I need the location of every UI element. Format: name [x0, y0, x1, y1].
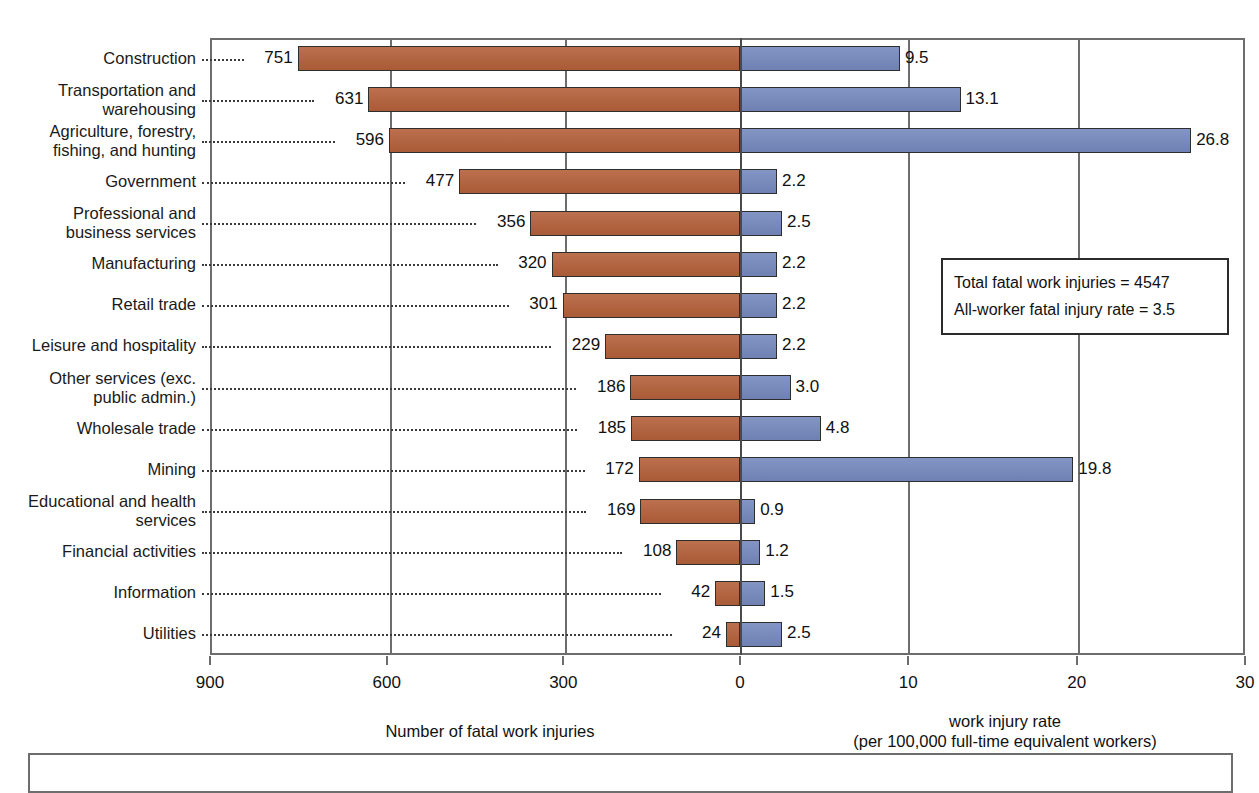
- right-axis-title-line2: (per 100,000 full-time equivalent worker…: [853, 732, 1157, 750]
- fatality-count-value: 185: [580, 418, 626, 438]
- category-label-line1: Other services (exc.: [49, 369, 196, 387]
- fatality-count-value: 229: [554, 335, 600, 355]
- fatality-count-bar: [530, 211, 740, 236]
- injury-rate-bar: [740, 416, 821, 441]
- category-label-line1: Utilities: [143, 624, 196, 642]
- injury-rate-value: 9.5: [905, 48, 929, 68]
- bar-row: Agriculture, forestry,fishing, and hunti…: [0, 120, 1259, 161]
- category-label-line1: Construction: [103, 49, 196, 67]
- fatality-count-value: 477: [408, 171, 454, 191]
- injury-rate-value: 2.2: [782, 171, 806, 191]
- tick-10-mark: [907, 656, 909, 665]
- category-label-line2: public admin.): [93, 388, 196, 406]
- tick-30-mark: [1244, 656, 1246, 665]
- category-label-line1: Professional and: [73, 204, 196, 222]
- category-label: Leisure and hospitality: [0, 336, 196, 355]
- bar-row: Other services (exc.public admin.)1863.0: [0, 367, 1259, 408]
- injury-rate-bar: [740, 293, 777, 318]
- leader-line: [202, 264, 498, 266]
- right-axis-title-line1: work injury rate: [949, 712, 1061, 730]
- category-label-line1: Wholesale trade: [77, 419, 196, 437]
- tick-30-label: 30: [1205, 673, 1259, 693]
- fatality-count-bar: [630, 375, 740, 400]
- gridline-zero: [740, 38, 742, 655]
- bar-row: Utilities242.5: [0, 614, 1259, 655]
- category-label: Transportation andwarehousing: [0, 81, 196, 119]
- leader-line: [202, 346, 551, 348]
- tick-0-mark: [739, 656, 741, 665]
- injury-rate-value: 2.5: [787, 212, 811, 232]
- fatality-count-bar: [631, 416, 740, 441]
- leader-line: [202, 429, 577, 431]
- category-label: Professional andbusiness services: [0, 204, 196, 242]
- fatality-count-value: 108: [625, 541, 671, 561]
- injury-rate-value: 3.0: [796, 377, 820, 397]
- injury-rate-bar: [740, 252, 777, 277]
- leader-line: [202, 552, 622, 554]
- category-label: Wholesale trade: [0, 419, 196, 438]
- category-label-line2: business services: [66, 223, 196, 241]
- fatality-count-bar: [368, 87, 740, 112]
- fatality-count-bar: [298, 46, 740, 71]
- fatality-count-value: 186: [579, 377, 625, 397]
- injury-rate-value: 2.2: [782, 294, 806, 314]
- category-label: Other services (exc.public admin.): [0, 369, 196, 407]
- fatality-count-value: 320: [501, 253, 547, 273]
- bar-row: Construction7519.5: [0, 38, 1259, 79]
- injury-rate-value: 1.5: [770, 582, 794, 602]
- category-label: Government: [0, 172, 196, 191]
- tick-0-label: 0: [700, 673, 780, 693]
- category-label: Educational and healthservices: [0, 492, 196, 530]
- fatality-count-bar: [639, 457, 740, 482]
- fatality-count-value: 169: [589, 500, 635, 520]
- injury-rate-bar: [740, 128, 1191, 153]
- bar-row: Information421.5: [0, 573, 1259, 614]
- leader-line: [202, 470, 585, 472]
- fatality-count-value: 24: [675, 623, 721, 643]
- leader-line: [202, 634, 672, 636]
- tick-600-label: 600: [347, 673, 427, 693]
- category-label: Retail trade: [0, 295, 196, 314]
- leader-line: [202, 223, 476, 225]
- leader-line: [202, 593, 661, 595]
- category-label-line1: Manufacturing: [91, 254, 196, 272]
- injury-rate-bar: [740, 622, 782, 647]
- fatality-count-value: 301: [512, 294, 558, 314]
- leader-line: [202, 141, 335, 143]
- injury-rate-value: 0.9: [760, 500, 784, 520]
- fatality-count-bar: [715, 581, 740, 606]
- injury-rate-bar: [740, 169, 777, 194]
- tick-600-mark: [386, 656, 388, 665]
- category-label-line2: warehousing: [102, 100, 196, 118]
- fatality-count-bar: [389, 128, 740, 153]
- injury-rate-value: 13.1: [966, 89, 999, 109]
- right-axis-title: work injury rate (per 100,000 full-time …: [760, 711, 1250, 751]
- fatality-count-value: 631: [317, 89, 363, 109]
- fatality-count-bar: [726, 622, 740, 647]
- summary-annotation-box: Total fatal work injuries = 4547 All-wor…: [941, 258, 1229, 335]
- injury-rate-value: 4.8: [826, 418, 850, 438]
- bar-row: Government4772.2: [0, 161, 1259, 202]
- bar-row: Mining17219.8: [0, 449, 1259, 490]
- injury-rate-bar: [740, 334, 777, 359]
- injury-rate-bar: [740, 87, 961, 112]
- category-label-line1: Educational and health: [28, 492, 196, 510]
- tick-10-label: 10: [868, 673, 948, 693]
- bar-row: Transportation andwarehousing63113.1: [0, 79, 1259, 120]
- injury-rate-bar: [740, 211, 782, 236]
- bar-row: Professional andbusiness services3562.5: [0, 203, 1259, 244]
- category-label: Information: [0, 583, 196, 602]
- category-label-line1: Transportation and: [58, 81, 196, 99]
- category-label-line1: Leisure and hospitality: [32, 336, 196, 354]
- fatality-count-value: 42: [664, 582, 710, 602]
- fatality-count-bar: [459, 169, 740, 194]
- injury-rate-bar: [740, 457, 1073, 482]
- fatality-count-value: 751: [247, 48, 293, 68]
- leader-line: [202, 100, 314, 102]
- injury-rate-bar: [740, 375, 791, 400]
- annotation-allworker-rate: All-worker fatal injury rate = 3.5: [954, 296, 1217, 323]
- category-label: Utilities: [0, 624, 196, 643]
- tick-20-label: 20: [1037, 673, 1117, 693]
- category-label-line1: Agriculture, forestry,: [50, 122, 196, 140]
